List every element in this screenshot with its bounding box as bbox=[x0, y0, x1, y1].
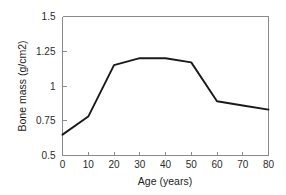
y-axis-title: Bone mass (g/cm2) bbox=[16, 40, 28, 131]
y-tick-label: 1 bbox=[50, 81, 56, 92]
bone-mass-line-chart: 0.50.7511.251.5 01020304050607080 Age (y… bbox=[0, 0, 286, 195]
x-tick-label: 0 bbox=[60, 159, 66, 170]
x-tick-label: 40 bbox=[160, 159, 172, 170]
x-tick-label: 70 bbox=[237, 159, 249, 170]
x-tick-label: 10 bbox=[83, 159, 95, 170]
x-tick-label: 30 bbox=[134, 159, 146, 170]
x-axis-tick-labels: 01020304050607080 bbox=[60, 159, 275, 170]
chart-canvas: 0.50.7511.251.5 01020304050607080 Age (y… bbox=[0, 0, 286, 195]
x-tick-label: 80 bbox=[263, 159, 275, 170]
y-tick-label: 0.75 bbox=[36, 115, 56, 126]
x-axis-title: Age (years) bbox=[138, 175, 192, 187]
y-tick-label: 0.5 bbox=[42, 150, 56, 161]
y-tick-label: 1.25 bbox=[36, 46, 56, 57]
y-tick-label: 1.5 bbox=[42, 11, 56, 22]
x-tick-label: 50 bbox=[186, 159, 198, 170]
x-tick-label: 20 bbox=[108, 159, 120, 170]
x-tick-label: 60 bbox=[211, 159, 223, 170]
